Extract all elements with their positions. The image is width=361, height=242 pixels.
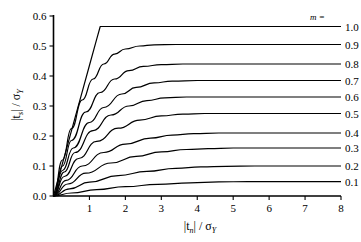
svg-text:|ts| / σY: |ts| / σY — [9, 88, 25, 121]
legend-label-0.6: 0.6 — [345, 91, 359, 103]
x-tick-label: 7 — [302, 202, 308, 214]
x-tick-label: 5 — [230, 202, 236, 214]
y-tick-label: 0.3 — [33, 100, 47, 112]
x-tick-label: 8 — [338, 202, 344, 214]
curve-0.7 — [54, 81, 342, 197]
curve-1.0 — [54, 27, 342, 197]
chart-figure: 0.00.10.20.30.40.50.6 12345678 1.00.90.8… — [0, 0, 361, 242]
y-tick-label: 0.5 — [33, 40, 47, 52]
curve-series-group — [54, 27, 342, 197]
line-chart: 0.00.10.20.30.40.50.6 12345678 1.00.90.8… — [0, 0, 361, 242]
y-tick-label: 0.2 — [33, 130, 47, 142]
legend-label-0.5: 0.5 — [345, 108, 359, 120]
y-tick-label: 0.0 — [33, 190, 47, 202]
y-axis-ticks: 0.00.10.20.30.40.50.6 — [33, 10, 54, 202]
legend-label-0.2: 0.2 — [345, 160, 359, 172]
y-tick-label: 0.4 — [33, 70, 47, 82]
x-axis-ticks: 12345678 — [87, 196, 345, 214]
y-tick-label: 0.1 — [33, 160, 47, 172]
legend-label-0.4: 0.4 — [345, 127, 359, 139]
y-axis-title: |ts| / σY — [9, 88, 25, 121]
y-tick-label: 0.6 — [33, 10, 47, 22]
legend-label-0.1: 0.1 — [345, 176, 359, 188]
y-title-part2: | / σ — [9, 93, 23, 112]
curve-0.1 — [54, 182, 342, 196]
legend-title: m = — [310, 12, 325, 22]
legend-label-1.0: 1.0 — [345, 21, 359, 33]
x-tick-label: 1 — [87, 202, 93, 214]
x-tick-label: 3 — [159, 202, 165, 214]
x-axis-title: |tn| / σY — [184, 219, 218, 235]
legend-label-0.3: 0.3 — [345, 142, 359, 154]
legend-label-0.8: 0.8 — [345, 58, 359, 70]
x-tick-label: 4 — [195, 202, 201, 214]
legend: 1.00.90.80.70.60.50.40.30.20.1 — [345, 21, 359, 188]
curve-0.4 — [54, 133, 342, 196]
legend-label-0.7: 0.7 — [345, 75, 359, 87]
x-tick-label: 6 — [266, 202, 272, 214]
svg-text:|tn| / σY: |tn| / σY — [184, 219, 218, 235]
legend-label-0.9: 0.9 — [345, 39, 359, 51]
x-title-part2: | / σ — [194, 219, 213, 233]
x-title-sub2: Y — [212, 226, 218, 235]
y-title-sub2: Y — [16, 88, 25, 94]
curve-0.9 — [54, 45, 342, 197]
x-tick-label: 2 — [123, 202, 129, 214]
